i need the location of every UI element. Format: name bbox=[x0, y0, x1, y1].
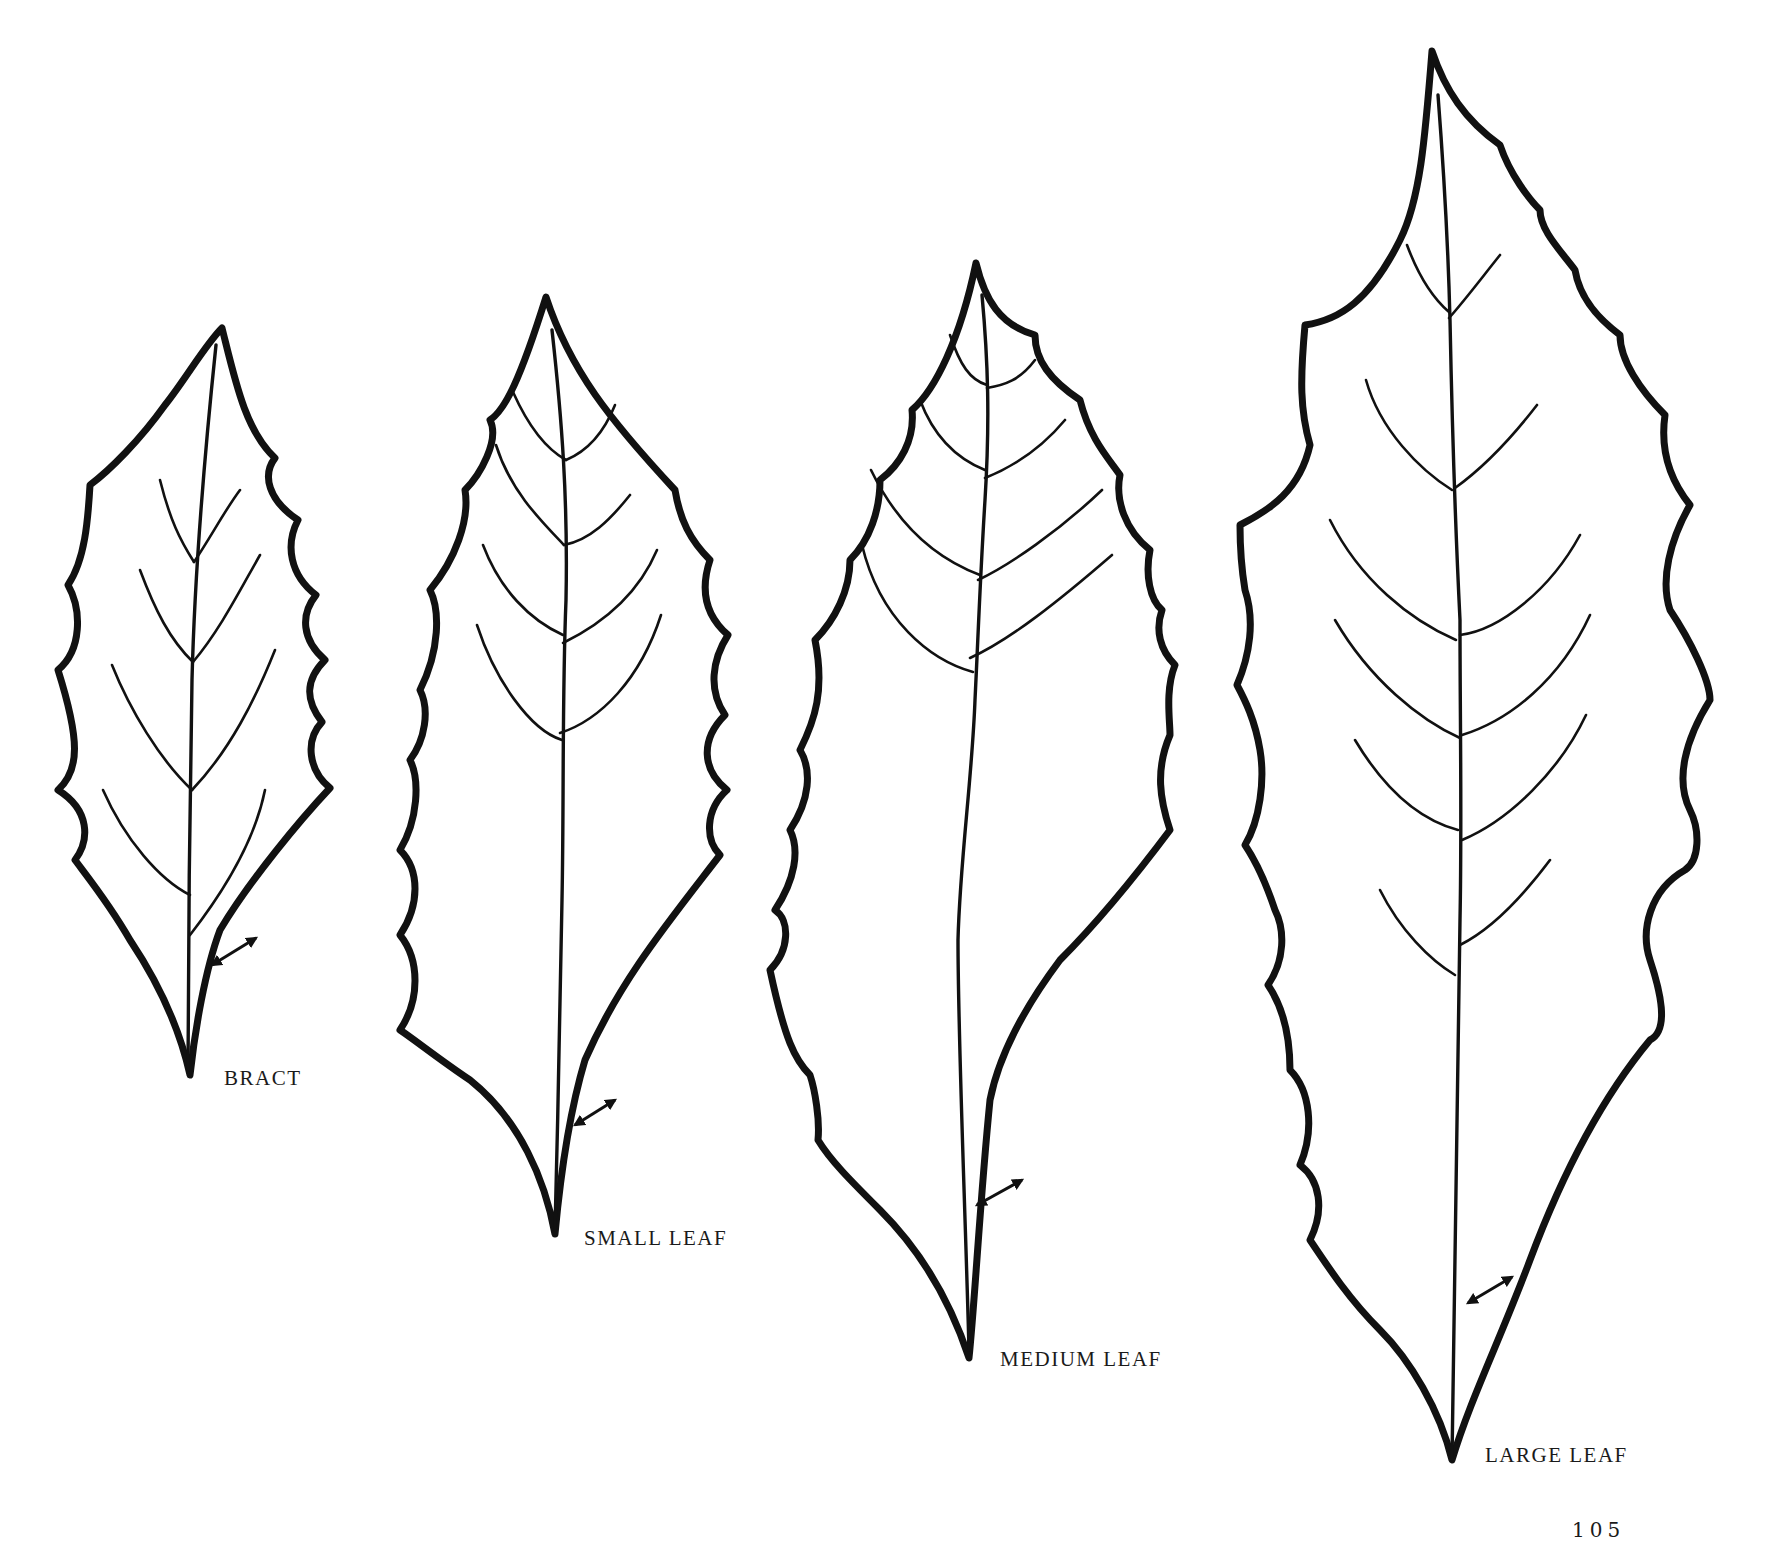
grain-arrow-icon bbox=[1468, 1277, 1512, 1303]
small-leaf bbox=[400, 297, 728, 1234]
page-number: 105 bbox=[1572, 1518, 1625, 1542]
grain-arrow-icon bbox=[575, 1100, 615, 1125]
label-medium-leaf: MEDIUM LEAF bbox=[1000, 1347, 1162, 1372]
leaf-templates-illustration bbox=[0, 0, 1775, 1551]
large-leaf bbox=[1237, 51, 1710, 1460]
label-small-leaf: SMALL LEAF bbox=[584, 1226, 727, 1251]
medium-leaf bbox=[770, 263, 1175, 1358]
label-bract: BRACT bbox=[224, 1066, 302, 1091]
label-large-leaf: LARGE LEAF bbox=[1485, 1443, 1628, 1468]
bract-leaf bbox=[58, 328, 330, 1075]
